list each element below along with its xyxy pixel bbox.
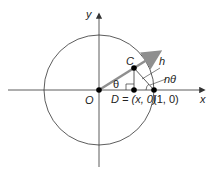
h-leader (142, 68, 160, 79)
c-label: C (126, 55, 134, 67)
unit-circle-diagram: y x O C D = (x, 0) (1, 0) θ h nθ (0, 0, 217, 176)
ntheta-arc (146, 84, 149, 90)
x-axis-label: x (199, 93, 206, 105)
point-origin (96, 87, 102, 93)
theta-label: θ (113, 78, 119, 90)
unit-point-label: (1, 0) (153, 93, 179, 105)
y-axis-label: y (85, 8, 93, 20)
origin-label: O (85, 94, 94, 106)
point-unit (151, 87, 157, 93)
ntheta-label: nθ (164, 73, 176, 85)
h-label: h (159, 55, 165, 67)
point-d (131, 87, 137, 93)
d-label: D = (x, 0) (111, 93, 157, 105)
